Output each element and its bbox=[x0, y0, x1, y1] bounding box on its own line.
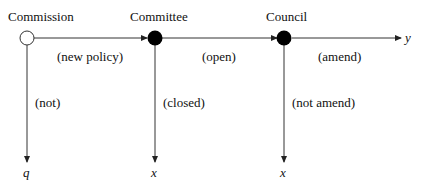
edge-label-open: (open) bbox=[202, 50, 236, 63]
outcome-y: y bbox=[405, 31, 411, 44]
node-label-commission: Commission bbox=[8, 10, 74, 23]
node-council bbox=[277, 31, 292, 46]
edge-label-new-policy: (new policy) bbox=[57, 50, 123, 63]
outcome-x-committee: x bbox=[151, 166, 157, 179]
node-committee bbox=[148, 31, 163, 46]
node-label-council: Council bbox=[266, 10, 307, 23]
outcome-q: q bbox=[23, 166, 30, 179]
edge-label-not-amend: (not amend) bbox=[292, 96, 355, 109]
node-commission bbox=[20, 31, 34, 45]
edge-label-amend: (amend) bbox=[318, 50, 361, 63]
edge-label-not: (not) bbox=[35, 96, 60, 109]
node-label-committee: Committee bbox=[130, 10, 188, 23]
game-tree-diagram bbox=[0, 0, 431, 186]
outcome-x-council: x bbox=[280, 166, 286, 179]
edge-label-closed: (closed) bbox=[163, 96, 205, 109]
